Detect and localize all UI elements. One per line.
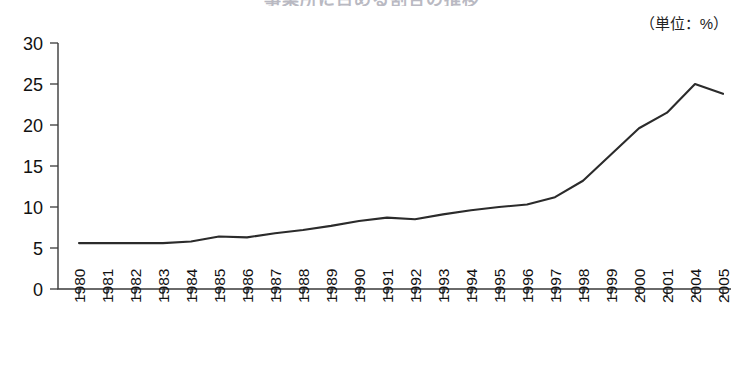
x-tick-label: 1991	[379, 269, 396, 303]
x-tick-label: 2001	[659, 269, 676, 303]
x-tick-label: 2004	[687, 268, 704, 303]
x-tick-label: 1992	[407, 269, 424, 303]
x-tick-label: 1986	[239, 269, 256, 303]
y-tick-label: 15	[23, 157, 43, 177]
x-tick-label: 1982	[127, 269, 144, 303]
data-series	[79, 84, 723, 243]
x-tick-label: 1990	[351, 268, 368, 303]
axes	[50, 43, 731, 298]
y-axis-tick-labels: 051015202530	[23, 34, 43, 300]
x-tick-label: 1993	[435, 269, 452, 303]
x-tick-label: 1996	[519, 269, 536, 303]
x-tick-label: 1995	[491, 269, 508, 303]
x-tick-label: 1994	[463, 268, 480, 303]
x-tick-label: 1980	[71, 268, 88, 303]
x-tick-label: 1989	[323, 269, 340, 303]
y-tick-label: 25	[23, 75, 43, 95]
x-tick-label: 1984	[183, 268, 200, 303]
y-tick-label: 5	[33, 239, 43, 259]
x-tick-label: 1999	[603, 269, 620, 303]
data-line	[79, 84, 723, 243]
y-tick-label: 20	[23, 116, 43, 136]
x-tick-label: 2005	[715, 269, 732, 303]
x-tick-label: 1983	[155, 269, 172, 303]
x-tick-label: 1997	[547, 269, 564, 303]
y-tick-label: 10	[23, 198, 43, 218]
line-chart-plot: 051015202530 198019811982198319841985198…	[0, 0, 744, 366]
x-axis-tick-labels: 1980198119821983198419851986198719881989…	[71, 268, 732, 303]
x-tick-label: 1987	[267, 269, 284, 303]
x-tick-label: 1985	[211, 269, 228, 303]
x-tick-label: 1998	[575, 269, 592, 303]
y-tick-label: 30	[23, 34, 43, 54]
axis-lines	[58, 43, 731, 289]
x-tick-label: 1988	[295, 269, 312, 303]
chart-container: 事業所に占める割合の推移 （単位：%） 051015202530 1980198…	[0, 0, 744, 366]
x-tick-label: 2000	[631, 268, 648, 303]
x-tick-label: 1981	[99, 269, 116, 303]
y-tick-label: 0	[33, 280, 43, 300]
